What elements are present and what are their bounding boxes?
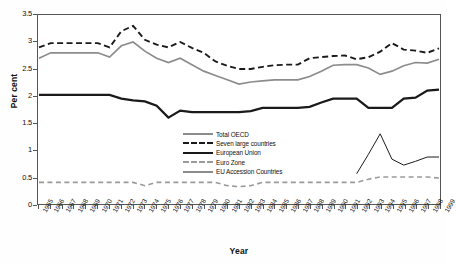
x-axis-tick-mark [286,205,287,209]
legend-item: EU Accession Countries [183,168,282,176]
chart-legend: Total OECDSeven large countriesEuropean … [181,129,284,178]
x-axis-tick-mark [180,205,181,209]
x-axis-tick-mark [345,205,346,209]
legend-label: Seven large countries [216,140,276,147]
x-axis-tick-mark [274,205,275,209]
y-axis-tick-label: 2.5 [22,65,32,73]
x-axis: 1965196619671968196919701971197219731974… [37,205,441,245]
x-axis-tick-mark [97,205,98,209]
legend-label: EU Accession Countries [216,168,282,175]
x-axis-tick-mark [381,205,382,209]
y-axis-title: Per cent [9,61,19,121]
x-axis-tick-mark [215,205,216,209]
x-axis-tick-mark [85,205,86,209]
legend-swatch-icon [183,139,213,147]
x-axis-tick-mark [298,205,299,209]
legend-swatch-icon [183,168,213,176]
series-line [39,177,439,187]
legend-swatch-icon [183,130,213,138]
x-axis-tick-mark [239,205,240,209]
legend-item: European Union [183,149,282,157]
legend-label: European Union [216,149,261,156]
x-axis-tick-mark [310,205,311,209]
y-axis-tick-label: 2 [28,92,32,100]
series-line [357,134,439,174]
y-axis-tick-label: 1.5 [22,119,32,127]
x-axis-tick-mark [38,205,39,209]
x-axis-tick-mark [50,205,51,209]
x-axis-tick-mark [121,205,122,209]
y-axis-tick-label: 3 [28,37,32,45]
y-axis-tick-label: 1 [28,146,32,154]
x-axis-tick-mark [168,205,169,209]
y-axis-tick-label: 0 [28,201,32,209]
x-axis-tick-mark [204,205,205,209]
legend-label: Total OECD [216,131,249,138]
legend-item: Euro Zone [183,158,282,166]
legend-item: Total OECD [183,130,282,138]
legend-item: Seven large countries [183,139,282,147]
x-axis-tick-mark [357,205,358,209]
x-axis-tick-mark [62,205,63,209]
legend-swatch-icon [183,158,213,166]
legend-label: Euro Zone [216,159,245,166]
x-axis-tick-label: 1999 [443,198,456,214]
x-axis-tick-mark [263,205,264,209]
x-axis-tick-mark [133,205,134,209]
x-axis-tick-mark [144,205,145,209]
series-line [39,26,439,69]
x-axis-tick-mark [251,205,252,209]
x-axis-title: Year [37,246,441,256]
y-axis-tick-label: 3.5 [22,10,32,18]
series-line [39,90,439,118]
x-axis-tick-mark [73,205,74,209]
x-axis-tick-mark [440,205,441,209]
legend-swatch-icon [183,149,213,157]
x-axis-tick-mark [156,205,157,209]
x-axis-tick-mark [369,205,370,209]
x-axis-tick-mark [227,205,228,209]
y-axis-tick-label: 0.5 [22,174,32,182]
x-axis-tick-mark [405,205,406,209]
x-axis-tick-mark [428,205,429,209]
x-axis-tick-mark [416,205,417,209]
x-axis-tick-mark [192,205,193,209]
x-axis-tick-mark [393,205,394,209]
x-axis-tick-mark [322,205,323,209]
x-axis-tick-mark [109,205,110,209]
x-axis-tick-mark [334,205,335,209]
series-line [39,42,439,84]
